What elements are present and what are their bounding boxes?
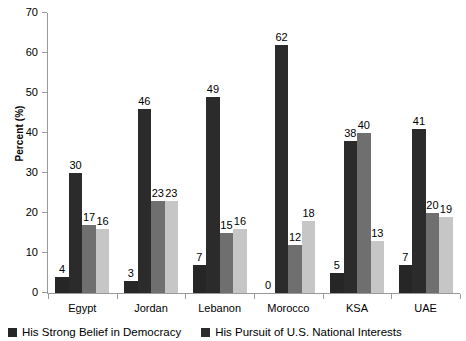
y-tick-mark	[42, 132, 47, 133]
y-tick-mark	[42, 52, 47, 53]
y-axis-line	[47, 13, 48, 294]
bar	[371, 241, 385, 293]
bar-value-label: 19	[432, 203, 460, 215]
y-tick-label: 70	[0, 6, 38, 18]
y-tick-label: 20	[0, 206, 38, 218]
legend-label: His Pursuit of U.S. National Interests	[215, 326, 402, 338]
bar	[165, 201, 179, 293]
x-tick-mark	[48, 294, 49, 299]
bar	[426, 213, 440, 293]
bar-value-label: 41	[405, 115, 433, 127]
bar	[302, 221, 316, 293]
legend-item: His Pursuit of U.S. National Interests	[201, 326, 402, 338]
legend-item: His Strong Belief in Democracy	[8, 326, 181, 338]
y-tick-label: 30	[0, 166, 38, 178]
legend-swatch-icon	[8, 328, 17, 337]
y-tick-label: 10	[0, 246, 38, 258]
bar	[399, 265, 413, 293]
y-tick-label: 40	[0, 126, 38, 138]
x-axis-category-label: Morocco	[254, 302, 323, 314]
y-tick-mark	[42, 212, 47, 213]
bar	[412, 129, 426, 293]
x-axis-category-label: Lebanon	[185, 302, 254, 314]
bar-value-label: 23	[157, 187, 185, 199]
y-tick-mark	[42, 92, 47, 93]
x-axis-category-label: UAE	[391, 302, 460, 314]
bar-value-label: 49	[199, 83, 227, 95]
bar-value-label: 40	[350, 119, 378, 131]
bar-value-label: 46	[130, 95, 158, 107]
x-tick-mark	[460, 294, 461, 299]
x-tick-mark	[185, 294, 186, 299]
x-tick-mark	[117, 294, 118, 299]
y-tick-mark	[42, 252, 47, 253]
bar	[220, 233, 234, 293]
bar-chart: Percent (%) 010203040506070 430171634623…	[0, 0, 466, 341]
bar-value-label: 18	[295, 207, 323, 219]
bar	[288, 245, 302, 293]
bar	[96, 229, 110, 293]
bar	[275, 45, 289, 293]
bar	[330, 273, 344, 293]
x-tick-mark	[323, 294, 324, 299]
bar	[55, 277, 69, 293]
bar	[206, 97, 220, 293]
bar	[439, 217, 453, 293]
bar	[193, 265, 207, 293]
bar	[344, 141, 358, 293]
x-axis-category-label: Egypt	[48, 302, 117, 314]
bar	[357, 133, 371, 293]
y-tick-mark	[42, 172, 47, 173]
bar	[69, 173, 83, 293]
x-tick-mark	[391, 294, 392, 299]
y-tick-label: 0	[0, 286, 38, 298]
x-axis-category-label: Jordan	[117, 302, 186, 314]
chart-legend: His Strong Belief in DemocracyHis Pursui…	[8, 326, 416, 338]
bar	[151, 201, 165, 293]
y-tick-label: 50	[0, 86, 38, 98]
bar-value-label: 13	[363, 227, 391, 239]
bar-value-label: 16	[226, 215, 254, 227]
legend-label: His Strong Belief in Democracy	[22, 326, 181, 338]
x-tick-mark	[254, 294, 255, 299]
y-tick-mark	[42, 12, 47, 13]
bar	[233, 229, 247, 293]
x-axis-category-label: KSA	[323, 302, 392, 314]
y-tick-mark	[42, 292, 47, 293]
bar	[138, 109, 152, 293]
bar-value-label: 30	[62, 159, 90, 171]
bar-value-label: 16	[89, 215, 117, 227]
y-tick-label: 60	[0, 46, 38, 58]
bar	[124, 281, 138, 293]
bar	[82, 225, 96, 293]
legend-swatch-icon	[201, 328, 210, 337]
bar-value-label: 62	[268, 31, 296, 43]
